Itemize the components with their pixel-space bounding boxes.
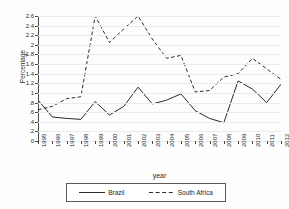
gridline (38, 93, 281, 94)
y-tick-mark (35, 131, 38, 132)
legend-item-south-africa: South Africa (149, 189, 213, 196)
x-tick-label: 1999 (98, 134, 104, 147)
y-tick-mark (35, 54, 38, 55)
x-tick-label: 1997 (69, 134, 75, 147)
y-tick-label: 1.8 (26, 51, 34, 57)
x-tick-label: 1998 (83, 134, 89, 147)
y-tick-label: .6 (29, 109, 34, 115)
y-tick-mark (35, 103, 38, 104)
gridline (38, 54, 281, 55)
x-tick-mark (252, 141, 253, 144)
y-tick-label: 1 (31, 90, 34, 96)
y-tick-mark (35, 112, 38, 113)
x-tick-label: 2002 (141, 134, 147, 147)
y-axis-tick-labels: 0.2.4.6.811.21.41.61.822.22.42.6 (0, 0, 34, 209)
x-tick-label: 1995 (41, 134, 47, 147)
x-tick-label: 2010 (255, 134, 261, 147)
x-tick-mark (167, 141, 168, 144)
y-tick-label: 1.2 (26, 80, 34, 86)
legend-key-dashed-line (149, 189, 175, 196)
x-tick-label: 2007 (212, 134, 218, 147)
x-tick-label: 2006 (198, 134, 204, 147)
plot-area (38, 16, 281, 141)
y-tick-mark (35, 93, 38, 94)
x-tick-mark (81, 141, 82, 144)
gridline (38, 112, 281, 113)
x-tick-mark (267, 141, 268, 144)
y-tick-mark (35, 35, 38, 36)
y-tick-mark (35, 122, 38, 123)
gridline (38, 26, 281, 27)
x-tick-label: 1996 (55, 134, 61, 147)
y-tick-label: .4 (29, 119, 34, 125)
x-tick-mark (281, 141, 282, 144)
x-tick-label: 2001 (126, 134, 132, 147)
x-tick-label: 2005 (184, 134, 190, 147)
chart-figure: 0.2.4.6.811.21.41.61.822.22.42.6 Percent… (0, 0, 289, 209)
x-tick-mark (95, 141, 96, 144)
y-tick-label: 0 (31, 138, 34, 144)
legend-label-brazil: Brazil (108, 189, 124, 196)
series-line-south-africa (38, 16, 281, 110)
x-tick-label: 2003 (155, 134, 161, 147)
y-tick-label: 2 (31, 42, 34, 48)
legend-key-solid-line (79, 189, 105, 196)
x-tick-mark (210, 141, 211, 144)
y-tick-label: 1.4 (26, 71, 34, 77)
x-tick-mark (67, 141, 68, 144)
gridline (38, 45, 281, 46)
x-tick-label: 2012 (284, 134, 289, 147)
gridline (38, 35, 281, 36)
y-tick-label: 1.6 (26, 61, 34, 67)
gridline (38, 103, 281, 104)
y-tick-mark (35, 26, 38, 27)
gridline (38, 83, 281, 84)
legend-label-south-africa: South Africa (178, 189, 213, 196)
x-tick-label: 2009 (241, 134, 247, 147)
y-tick-mark (35, 45, 38, 46)
x-tick-label: 2011 (269, 134, 275, 147)
gridline (38, 16, 281, 17)
y-tick-mark (35, 16, 38, 17)
x-tick-mark (38, 141, 39, 144)
gridline (38, 74, 281, 75)
x-tick-mark (181, 141, 182, 144)
x-axis-title: year (38, 172, 281, 179)
x-tick-mark (238, 141, 239, 144)
x-tick-mark (109, 141, 110, 144)
y-tick-label: 2.2 (26, 32, 34, 38)
chart-legend: Brazil South Africa (66, 183, 226, 202)
y-tick-label: 2.6 (26, 13, 34, 19)
y-tick-label: .8 (29, 100, 34, 106)
y-tick-mark (35, 141, 38, 142)
y-tick-mark (35, 83, 38, 84)
x-tick-label: 2008 (226, 134, 232, 147)
gridline (38, 122, 281, 123)
y-tick-mark (35, 64, 38, 65)
x-tick-mark (152, 141, 153, 144)
y-tick-label: .2 (29, 128, 34, 134)
x-tick-mark (52, 141, 53, 144)
x-tick-label: 2000 (112, 134, 118, 147)
y-tick-label: 2.4 (26, 23, 34, 29)
x-tick-mark (138, 141, 139, 144)
x-tick-label: 2004 (169, 134, 175, 147)
gridline (38, 131, 281, 132)
legend-item-brazil: Brazil (79, 189, 124, 196)
gridline (38, 64, 281, 65)
x-tick-mark (195, 141, 196, 144)
x-tick-mark (124, 141, 125, 144)
x-tick-mark (224, 141, 225, 144)
y-tick-mark (35, 74, 38, 75)
y-axis-title: Percentage (19, 27, 26, 107)
